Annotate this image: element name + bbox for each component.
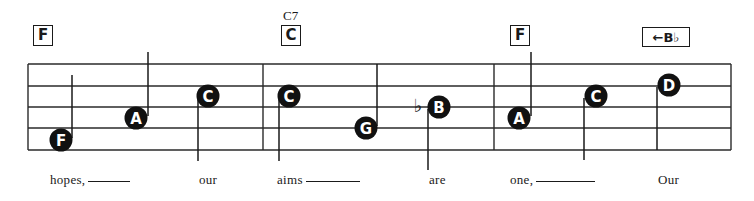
lyric-text: are: [429, 172, 446, 187]
lyric-syllable: Our: [658, 172, 679, 188]
note-letter: C: [202, 88, 213, 106]
lyric-text: our: [199, 172, 217, 187]
lyric-text: aims: [277, 172, 303, 187]
note-c: C: [584, 85, 608, 161]
notes: FACCGB♭ACD: [50, 52, 681, 170]
note-d: D: [657, 74, 681, 151]
chord-box-bb: ←B♭: [642, 27, 690, 47]
chord-box-f: F: [33, 25, 53, 46]
note-letter: C: [283, 88, 294, 106]
note-letter: A: [130, 110, 142, 128]
lyric-syllable: hopes,: [50, 172, 130, 188]
flat-icon: ♭: [414, 95, 423, 116]
note-g: G: [355, 64, 378, 140]
note-b: B♭: [414, 95, 451, 170]
chord-name: C7: [283, 8, 298, 24]
lyric-syllable: one,: [510, 172, 595, 188]
lyric-extender-line: [536, 181, 595, 182]
lyric-text: one,: [510, 172, 533, 187]
lyric-syllable: our: [199, 172, 217, 188]
note-letter: A: [513, 110, 525, 128]
lyric-syllable: aims: [277, 172, 360, 188]
note-letter: G: [360, 120, 372, 138]
note-letter: B: [433, 99, 444, 117]
chord-box-c: C: [281, 25, 301, 46]
lyric-extender-line: [306, 181, 360, 182]
chord-box-f: F: [510, 25, 530, 46]
note-letter: C: [590, 88, 601, 106]
note-letter: D: [663, 77, 675, 95]
lyric-text: hopes,: [50, 172, 85, 187]
lyric-syllable: are: [429, 172, 446, 188]
music-staff: FACCGB♭ACD: [0, 0, 754, 201]
lyric-extender-line: [88, 181, 130, 182]
note-letter: F: [56, 132, 66, 150]
lyric-text: Our: [658, 172, 679, 187]
